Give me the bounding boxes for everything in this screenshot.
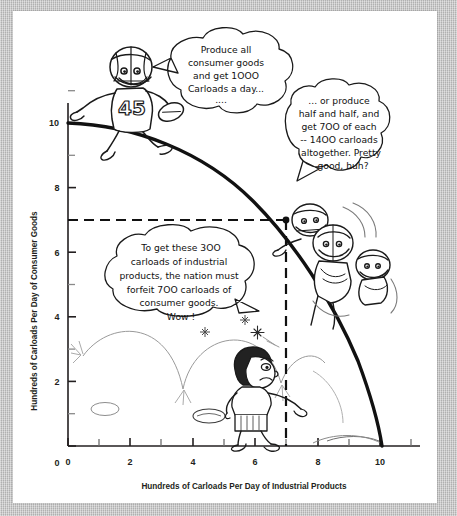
bubble-half-and-half: ... or produce half and half, and get 7O… — [285, 79, 389, 181]
jersey-number: 45 — [118, 96, 146, 120]
bubble-produce-all: Produce all consumer goods and get 1OOO … — [153, 28, 293, 113]
bubble-forfeit-line-3: products, the nation must — [119, 270, 238, 281]
bubble-produce-all-line-4: Carloads a day... — [188, 83, 264, 94]
bubble-forfeit-line-2: carloads of industrial — [131, 256, 228, 267]
character-upset-player — [226, 326, 307, 451]
bubble-produce-all-line-2: consumer goods — [188, 57, 264, 68]
bubble-half-line-5: altogether. Pretty — [301, 147, 382, 158]
bubble-forfeit-line-4: forfeit 7OO carloads of — [127, 284, 232, 295]
x-tick-label-4: 4 — [190, 457, 195, 467]
x-tick-label-10: 10 — [375, 457, 385, 467]
bubble-half-line-6: good, huh? — [317, 160, 368, 171]
bubble-forfeit-line-6: Wow ! — [167, 311, 195, 322]
y-tick-label-8: 8 — [54, 183, 59, 193]
x-tick-label-6: 6 — [252, 457, 257, 467]
y-tick-label-0: 0 — [54, 458, 59, 468]
y-tick-label-2: 2 — [54, 377, 59, 387]
bubble-forfeit-line-5: consumer goods. — [139, 297, 218, 308]
bubble-produce-all-line-1: Produce all — [201, 44, 252, 55]
y-tick-label-10: 10 — [49, 118, 59, 128]
x-tick-label-0: 0 — [65, 457, 70, 467]
x-tick-label-8: 8 — [315, 457, 320, 467]
y-tick-label-6: 6 — [54, 248, 59, 258]
bubble-forfeit: To get these 3OO carloads of industrial … — [105, 225, 259, 322]
textbook-page: 0 2 4 6 8 10 0 2 4 6 8 10 Hundreds of Ca… — [13, 11, 437, 503]
bouncing-ball-arcs — [71, 315, 381, 443]
bubble-half-line-4: -- 14OO carloads — [300, 134, 378, 145]
bubble-half-line-3: get 7OO of each — [301, 121, 376, 132]
bubble-forfeit-line-1: To get these 3OO — [140, 242, 220, 253]
bubble-produce-all-line-3: and get 1OOO — [193, 70, 259, 81]
bubble-half-line-1: ... or produce — [308, 95, 370, 106]
ppf-cartoon-figure: 0 2 4 6 8 10 0 2 4 6 8 10 Hundreds of Ca… — [13, 11, 437, 503]
y-tick-label-4: 4 — [54, 312, 59, 322]
y-axis-title: Hundreds of Carloads Per Day of Consumer… — [30, 211, 39, 411]
marked-point-7-7 — [283, 217, 290, 224]
x-tick-label-2: 2 — [127, 457, 132, 467]
bubble-half-line-2: half and half, and — [299, 108, 380, 119]
bubble-produce-all-trailing: .... — [215, 94, 227, 105]
x-axis-title: Hundreds of Carloads Per Day of Industri… — [141, 482, 347, 491]
